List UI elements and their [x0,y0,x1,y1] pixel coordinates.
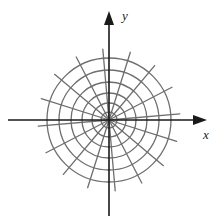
polar-spoke-3 [109,66,155,120]
y-axis-arrowhead [104,11,114,25]
polar-spoke-15 [109,120,163,166]
polar-spoke-11 [63,120,109,174]
x-axis-arrowhead [193,115,207,125]
polar-grid-figure: y x [0,0,220,224]
polar-grid-canvas [0,0,220,224]
y-axis-label: y [122,9,128,22]
polar-spoke-7 [55,74,109,120]
x-axis-label: x [203,128,209,141]
